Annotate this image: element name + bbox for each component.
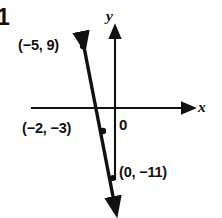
- point-marker-1: [80, 43, 86, 49]
- point-label-2: (−2, −3): [22, 121, 71, 136]
- point-marker-3: [110, 175, 116, 181]
- point-label-3: (0, −11): [119, 165, 167, 180]
- y-axis-label: y: [106, 8, 113, 24]
- plotted-line: [82, 34, 114, 199]
- coordinate-plane-svg: [0, 0, 222, 218]
- problem-number: 1: [0, 6, 9, 29]
- point-label-1: (−5, 9): [18, 38, 59, 53]
- origin-label: 0: [119, 117, 127, 132]
- graph-figure: 1 y x 0 (−5, 9) (−2, −3) (0, −11): [0, 0, 222, 218]
- x-axis-label: x: [198, 99, 206, 115]
- point-marker-2: [100, 128, 106, 134]
